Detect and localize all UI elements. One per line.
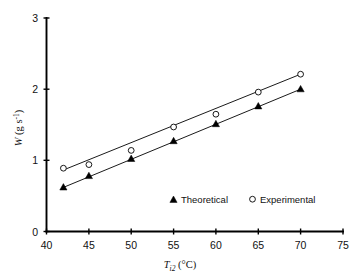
x-tick-label-70: 70	[295, 239, 307, 251]
y-tick-label-0: 0	[32, 226, 38, 238]
experimental-point-5	[213, 111, 219, 117]
experimental-point-4	[171, 124, 177, 130]
x-tick-label-65: 65	[252, 239, 264, 251]
experimental-point-7	[298, 71, 304, 77]
x-tick-label-55: 55	[168, 239, 180, 251]
y-axis-title-units: (g s	[13, 119, 25, 134]
experimental-point-3	[128, 148, 134, 154]
x-tick-label-60: 60	[210, 239, 222, 251]
experimental-point-1	[61, 165, 67, 171]
experimental-point-6	[255, 89, 261, 95]
chart-canvas: 0 1 2 3 40 45 50 55 60 65 70 75	[0, 0, 356, 279]
x-tick-label-50: 50	[125, 239, 137, 251]
y-tick-label-3: 3	[32, 12, 38, 24]
x-tick-label-75: 75	[337, 239, 349, 251]
y-axis-title-units-close: )	[13, 109, 25, 113]
experimental-point-2	[86, 162, 92, 168]
legend-label-theoretical: Theoretical	[181, 194, 228, 205]
x-tick-label-40: 40	[41, 239, 53, 251]
x-tick-label-45: 45	[83, 239, 95, 251]
y-tick-label-2: 2	[32, 83, 38, 95]
chart-figure: 0 1 2 3 40 45 50 55 60 65 70 75	[0, 0, 356, 279]
legend-marker-experimental-open-circle-icon	[250, 196, 256, 202]
legend-label-experimental: Experimental	[260, 194, 315, 205]
y-tick-label-1: 1	[32, 154, 38, 166]
x-axis-title-units-text: (°C)	[178, 259, 197, 271]
